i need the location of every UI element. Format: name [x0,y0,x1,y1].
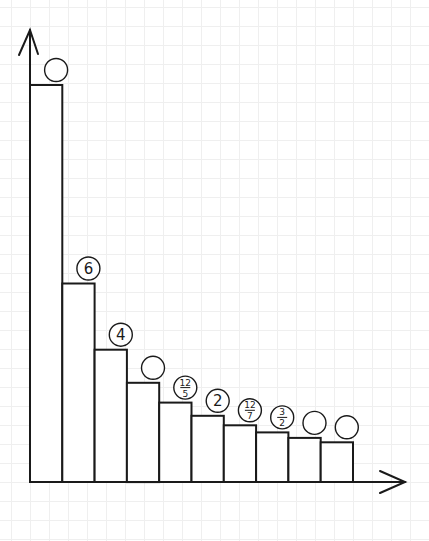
svg-text:3: 3 [279,407,285,417]
svg-text:2: 2 [213,392,223,410]
bar-label-7: 127 [238,399,261,422]
bar-label-8: 32 [271,406,294,429]
bar-7 [224,425,256,482]
bar-label-3: 4 [109,323,132,346]
harmonic-bar-diagram: 64125212732 [0,0,429,541]
bar-3 [95,350,127,482]
svg-text:7: 7 [247,411,253,421]
svg-text:5: 5 [182,389,188,399]
svg-text:12: 12 [180,378,191,388]
bar-4 [127,383,159,482]
bar-10 [321,442,353,482]
bar-5 [159,403,191,482]
svg-text:4: 4 [116,326,126,344]
bar-label-5: 125 [174,376,197,399]
bar-8 [256,432,288,482]
bar-2 [62,284,94,483]
svg-text:2: 2 [279,418,285,428]
svg-text:12: 12 [244,400,255,410]
bar-label-1 [45,59,68,82]
bar-chart-canvas: 64125212732 [0,0,429,541]
bar-1 [30,85,62,482]
svg-text:6: 6 [84,260,94,278]
bar-label-2: 6 [77,257,100,280]
bar-label-6: 2 [206,389,229,412]
bar-9 [288,438,320,482]
label-circle-icon [45,59,68,82]
label-circle-icon [335,416,358,439]
bar-6 [192,416,224,482]
bar-label-10 [335,416,358,439]
label-circle-icon [142,356,165,379]
bar-label-4 [142,356,165,379]
label-circle-icon [303,411,326,434]
bar-label-9 [303,411,326,434]
y-axis-arrow-icon [19,30,38,55]
